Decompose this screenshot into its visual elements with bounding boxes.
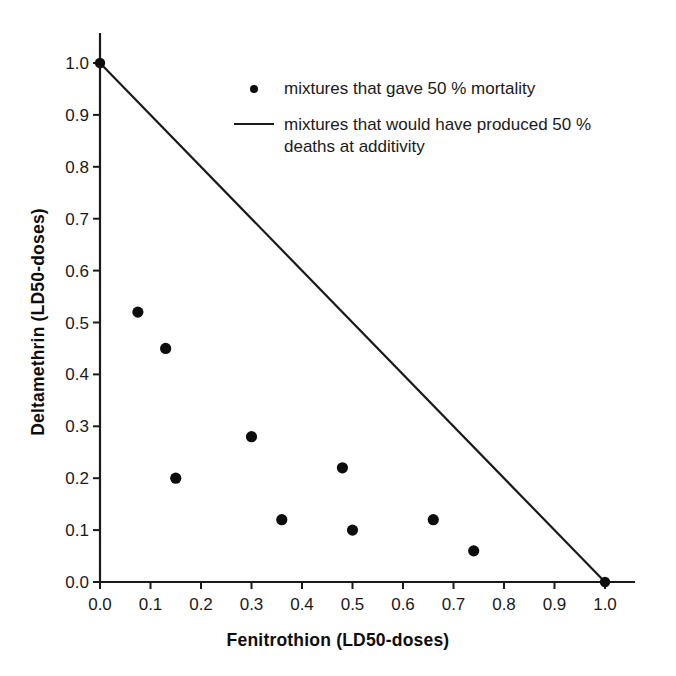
x-tick-label: 0.1 <box>139 596 163 613</box>
data-point <box>428 514 439 525</box>
isobologram-figure: 0.00.10.20.30.40.50.60.70.80.91.0 0.00.1… <box>0 0 676 676</box>
y-tick-label: 0.9 <box>45 106 89 123</box>
x-tick-label: 0.0 <box>88 596 112 613</box>
x-tick-label: 0.8 <box>492 596 516 613</box>
x-tick-label: 0.2 <box>189 596 213 613</box>
data-point <box>132 307 143 318</box>
x-tick-label: 0.9 <box>543 596 567 613</box>
data-points-series <box>132 307 479 557</box>
data-point <box>337 462 348 473</box>
data-point <box>170 473 181 484</box>
legend-dot-marker-icon <box>228 78 280 99</box>
x-tick-label: 0.7 <box>442 596 466 613</box>
legend-label-points: mixtures that gave 50 % mortality <box>280 78 535 100</box>
x-tick-label: 0.5 <box>341 596 365 613</box>
y-tick-label: 0.5 <box>45 314 89 331</box>
legend-label-line: mixtures that would have produced 50 % d… <box>280 114 591 158</box>
x-tick-label: 1.0 <box>593 596 617 613</box>
y-tick-label: 0.3 <box>45 418 89 435</box>
data-point <box>246 431 257 442</box>
y-tick-label: 0.2 <box>45 470 89 487</box>
legend-entry-points: mixtures that gave 50 % mortality <box>228 78 668 100</box>
y-tick-label: 0.6 <box>45 262 89 279</box>
data-point <box>160 343 171 354</box>
data-point <box>347 525 358 536</box>
y-tick-label: 0.7 <box>45 210 89 227</box>
legend-line-marker-icon <box>228 114 280 135</box>
x-tick-label: 0.3 <box>240 596 264 613</box>
y-axis-title: Deltamethrin (LD50-doses) <box>28 208 49 436</box>
line-endpoint-marker <box>95 58 105 68</box>
x-tick-label: 0.4 <box>290 596 314 613</box>
y-tick-label: 0.4 <box>45 366 89 383</box>
line-endpoint-marker <box>600 577 610 587</box>
y-tick-label: 1.0 <box>45 55 89 72</box>
data-point <box>276 514 287 525</box>
data-point <box>468 545 479 556</box>
x-axis-title: Fenitrothion (LD50-doses) <box>227 630 450 651</box>
y-tick-label: 0.8 <box>45 158 89 175</box>
chart-legend: mixtures that gave 50 % mortality mixtur… <box>228 78 668 171</box>
y-tick-label: 0.1 <box>45 522 89 539</box>
y-tick-label: 0.0 <box>45 574 89 591</box>
legend-entry-line: mixtures that would have produced 50 % d… <box>228 114 668 158</box>
x-tick-label: 0.6 <box>391 596 415 613</box>
